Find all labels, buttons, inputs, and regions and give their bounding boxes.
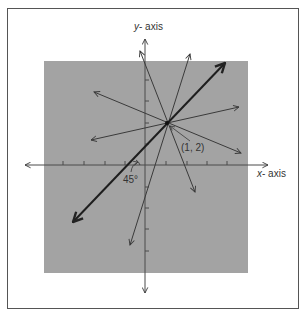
point-label: (1, 2) xyxy=(181,143,204,153)
coordinate-plane xyxy=(0,0,303,314)
point-1-2 xyxy=(165,121,169,125)
y-axis-label: y- axis xyxy=(134,22,163,32)
x-axis-label-text: - axis xyxy=(262,168,286,179)
gray-panel xyxy=(44,61,248,273)
x-axis-label: x- axis xyxy=(257,169,286,179)
angle-label: 45° xyxy=(123,175,138,185)
y-axis-label-text: - axis xyxy=(139,21,163,32)
